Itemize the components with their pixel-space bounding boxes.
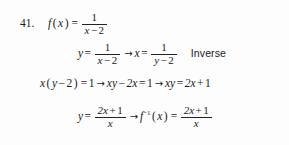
equals-sign: = xyxy=(70,17,80,29)
solution-line-4: y= 2x+1 x →f−1(x)= 2x+1 x xyxy=(78,105,214,130)
term-xy: xy xyxy=(107,77,117,89)
fraction-denominator: x−2 xyxy=(95,55,121,67)
fraction-2x-plus-1-over-x: 2x+1 x xyxy=(181,105,212,130)
fraction-numerator: 1 xyxy=(95,42,121,54)
fraction-denominator: x xyxy=(95,118,126,130)
paren-open: ( xyxy=(45,77,52,89)
equals-sign: = xyxy=(169,110,179,122)
numerator-plus: + xyxy=(108,104,117,116)
denominator-minus: − xyxy=(89,24,98,36)
fraction-numerator: 2x+1 xyxy=(95,105,126,117)
fraction-denominator: x xyxy=(181,118,212,130)
fraction-numerator: 1 xyxy=(82,12,108,24)
denominator-constant: 2 xyxy=(168,54,174,66)
fraction-one-over-x-minus-2: 1 x−2 xyxy=(95,42,121,67)
scanned-solution-page: 41.f(x)= 1 x−2 y= 1 x−2 →x= 1 y−2 Invers… xyxy=(0,0,289,145)
numerator-term-2x: 2x xyxy=(98,104,108,116)
implies-arrow-icon: → xyxy=(122,48,134,59)
denominator-minus: − xyxy=(103,54,112,66)
numerator-term-2x: 2x xyxy=(184,104,194,116)
solution-line-3: x(y−2)=1→xy−2x=1→xy=2x+1 xyxy=(40,77,211,89)
fraction-one-over-y-minus-2: 1 y−2 xyxy=(151,42,177,67)
solution-line-2: y= 1 x−2 →x= 1 y−2 Inverse xyxy=(78,42,226,67)
term-2x: 2x xyxy=(185,77,196,89)
implies-arrow-icon: → xyxy=(153,78,165,89)
fraction-denominator: y−2 xyxy=(151,55,177,67)
numerator-constant: 1 xyxy=(203,104,209,116)
denominator-constant: 2 xyxy=(99,24,105,36)
fraction-numerator: 1 xyxy=(151,42,177,54)
equals-sign: = xyxy=(137,77,147,89)
denominator-variable: x xyxy=(98,54,103,66)
equals-sign: = xyxy=(140,47,150,59)
equals-sign: = xyxy=(83,47,93,59)
term-2x: 2x xyxy=(127,77,138,89)
fraction-one-over-x-minus-2: 1 x−2 xyxy=(82,12,108,37)
numerator-constant: 1 xyxy=(117,104,123,116)
implies-arrow-icon: → xyxy=(94,78,106,89)
plus-sign: + xyxy=(196,77,206,89)
fraction-numerator: 2x+1 xyxy=(181,105,212,117)
constant-1: 1 xyxy=(147,77,153,89)
paren-close: ) xyxy=(63,17,70,29)
inverse-annotation: Inverse xyxy=(179,47,226,59)
denominator-constant: 2 xyxy=(112,54,118,66)
fraction-denominator: x−2 xyxy=(82,25,108,37)
implies-arrow-icon: → xyxy=(128,111,140,122)
term-xy: xy xyxy=(165,77,175,89)
minus-sign: − xyxy=(117,77,127,89)
solution-line-1: 41.f(x)= 1 x−2 xyxy=(20,12,109,37)
equals-sign: = xyxy=(175,77,185,89)
equals-sign: = xyxy=(83,110,93,122)
numerator-plus: + xyxy=(194,104,203,116)
problem-number: 41. xyxy=(20,17,48,29)
variable-x: x xyxy=(135,47,140,59)
denominator-minus: − xyxy=(159,54,168,66)
fraction-2x-plus-1-over-x: 2x+1 x xyxy=(95,105,126,130)
minus-sign: − xyxy=(57,77,67,89)
equals-sign: = xyxy=(79,77,89,89)
constant-1: 1 xyxy=(205,77,211,89)
